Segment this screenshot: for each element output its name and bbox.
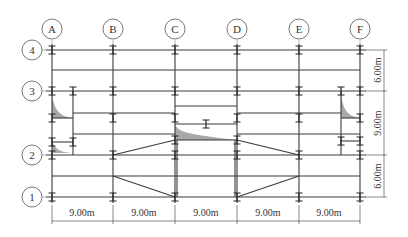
column-ibeam-icon xyxy=(110,114,117,122)
axis-label-C: C xyxy=(171,23,178,35)
axis-label-F: F xyxy=(357,23,363,35)
right-dimension-line: 6.00m 9.00m 6.00m xyxy=(366,50,387,197)
axis-label-B: B xyxy=(109,23,116,35)
column-ibeam-icon xyxy=(234,114,241,122)
axis-bubble-A: A xyxy=(42,19,62,44)
axis-bubble-B: B xyxy=(103,19,123,44)
dim-label-CD: 9.00m xyxy=(193,207,219,218)
axis-bubble-E: E xyxy=(289,19,309,44)
structural-plan-drawing: A B C D E F xyxy=(0,0,408,237)
axis-bubble-F: F xyxy=(350,19,370,44)
column-ibeam-icon xyxy=(296,114,303,122)
axis-label-4: 4 xyxy=(29,44,35,56)
row-axis-labels: 4 3 2 1 xyxy=(22,40,46,207)
axis-label-E: E xyxy=(296,23,303,35)
axis-label-1: 1 xyxy=(29,191,35,203)
axis-label-3: 3 xyxy=(29,85,35,97)
dim-label-DE: 9.00m xyxy=(255,207,281,218)
column-ibeam-icon xyxy=(172,114,179,122)
dim-label-32: 9.00m xyxy=(372,110,383,136)
axis-label-A: A xyxy=(48,23,56,35)
axis-label-2: 2 xyxy=(29,149,35,161)
axis-label-D: D xyxy=(233,23,241,35)
column-axis-labels: A B C D E F xyxy=(42,19,370,44)
axis-bubble-C: C xyxy=(165,19,185,44)
axis-bubble-4: 4 xyxy=(22,40,46,60)
dim-label-21: 6.00m xyxy=(372,163,383,189)
axis-bubble-2: 2 xyxy=(22,145,46,165)
column-symbols xyxy=(49,46,364,201)
dim-label-BC: 9.00m xyxy=(131,207,157,218)
diagonal-members xyxy=(113,140,299,197)
axis-bubble-1: 1 xyxy=(22,187,46,207)
dim-label-EF: 9.00m xyxy=(316,207,342,218)
dim-label-AB: 9.00m xyxy=(69,207,95,218)
dim-label-43: 6.00m xyxy=(372,57,383,83)
axis-bubble-D: D xyxy=(227,19,247,44)
bottom-dimension-line: 9.00m 9.00m 9.00m 9.00m 9.00m xyxy=(52,205,360,224)
axis-bubble-3: 3 xyxy=(22,81,46,101)
